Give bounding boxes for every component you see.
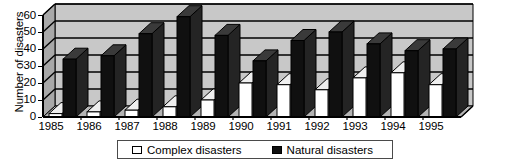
chart-legend: Complex disasters Natural disasters [117,140,393,159]
x-tick-label-1995: 1995 [408,120,454,132]
legend-label-complex-disasters: Complex disasters [147,144,242,156]
bar-chart: Number of disasters 60 50 40 30 20 10 0 … [0,0,507,164]
legend-label-natural-disasters: Natural disasters [287,144,373,156]
filled-square-icon [272,146,282,154]
plot-area [0,0,507,140]
legend-entry-complex-disasters: Complex disasters [132,144,242,156]
legend-entry-natural-disasters: Natural disasters [272,144,373,156]
hollow-square-icon [132,146,142,154]
